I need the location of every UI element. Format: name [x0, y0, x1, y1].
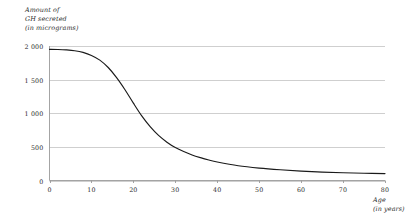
x-tick-label-20: 20: [129, 186, 137, 193]
x-tick-label-30: 30: [171, 186, 179, 193]
y-tick-label-0: 0: [0, 177, 44, 184]
x-tick-label-80: 80: [381, 186, 389, 193]
x-tick-label-60: 60: [297, 186, 305, 193]
y-tick-label-2000: 2 000: [0, 43, 44, 50]
y-tick-label-1500: 1 500: [0, 76, 44, 83]
x-tick-label-0: 0: [47, 186, 51, 193]
x-tick-label-10: 10: [87, 186, 95, 193]
x-tick-label-40: 40: [213, 186, 221, 193]
chart-figure: Amount of GH secreted (in micrograms) Ag…: [0, 0, 419, 223]
x-tick-label-70: 70: [339, 186, 347, 193]
gridlines: [50, 47, 386, 182]
plot-area: [0, 0, 419, 223]
data-series-line: [50, 49, 386, 173]
x-tick-label-50: 50: [255, 186, 263, 193]
y-tick-label-500: 500: [0, 143, 44, 150]
y-tick-label-1000: 1 000: [0, 110, 44, 117]
